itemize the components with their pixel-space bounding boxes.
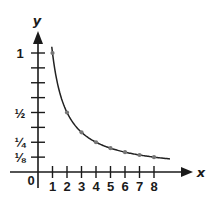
data-point	[65, 110, 69, 114]
y-axis-label: y	[33, 13, 42, 28]
x-tick-label: 4	[92, 179, 100, 194]
x-tick-label: 1	[49, 179, 56, 194]
y-axis-arrow-icon	[33, 31, 43, 44]
data-point	[108, 146, 112, 150]
data-point	[50, 51, 54, 55]
reciprocal-curve	[52, 47, 170, 159]
axes	[10, 31, 193, 188]
x-tick-label: 7	[136, 179, 143, 194]
data-point	[94, 140, 98, 144]
reciprocal-function-chart: y x 0 123456781½¼⅛	[0, 0, 219, 203]
y-tick-label: ⅛	[15, 150, 27, 165]
y-tick-label: ½	[15, 106, 26, 121]
y-tick-label: 1	[16, 46, 23, 61]
x-tick-label: 2	[63, 179, 70, 194]
ticks	[31, 53, 154, 178]
x-axis-arrow-icon	[181, 167, 193, 177]
y-tick-label: ¼	[15, 135, 27, 150]
data-points	[50, 51, 156, 159]
data-point	[123, 150, 127, 154]
x-tick-label: 6	[121, 179, 128, 194]
data-point	[79, 130, 83, 134]
data-point	[152, 155, 156, 159]
data-point	[137, 153, 141, 157]
origin-label: 0	[27, 173, 34, 188]
curve	[52, 47, 170, 159]
x-tick-label: 3	[78, 179, 85, 194]
x-tick-label: 8	[150, 179, 157, 194]
x-axis-label: x	[196, 165, 206, 180]
x-tick-label: 5	[107, 179, 114, 194]
